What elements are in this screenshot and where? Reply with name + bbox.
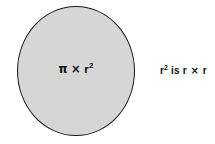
note-verb: is (168, 65, 183, 76)
squared-explanation-note: r2 is r × r (160, 64, 207, 78)
pi-symbol: π (58, 62, 67, 76)
area-of-circle-diagram: π × r2 r2 is r × r (0, 0, 215, 144)
note-multiplication-sign-icon: × (187, 65, 203, 76)
note-radius-second: r (203, 65, 207, 76)
exponent-two: 2 (89, 61, 94, 70)
circle-area-formula-label: π × r2 (17, 62, 135, 76)
multiplication-sign-icon: × (71, 62, 81, 76)
